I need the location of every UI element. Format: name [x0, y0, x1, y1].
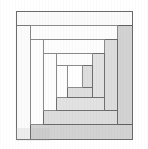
log-ring4-bottom: [67, 87, 93, 98]
log-ring1-right: [117, 25, 133, 125]
log-ring2-bottom: [43, 110, 118, 125]
log-ring2-left: [30, 39, 44, 125]
log-ring2-top: [30, 25, 118, 40]
log-ring2-right: [104, 39, 118, 111]
log-ring3-bottom: [56, 97, 105, 111]
log-ring3-right: [92, 53, 105, 98]
log-ring4-right: [82, 65, 93, 88]
log-ring3-left: [43, 53, 57, 111]
log-ring3-top: [43, 39, 105, 54]
center-square: [67, 65, 83, 88]
log-ring1-bottom: [30, 124, 133, 140]
quilt-block-figure: [0, 0, 148, 149]
log-ring1-left: [16, 25, 31, 140]
log-ring1-top: [16, 11, 133, 26]
